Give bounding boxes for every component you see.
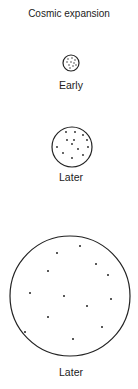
label-early: Early: [0, 79, 138, 91]
circle-early: [63, 55, 79, 71]
expansion-diagram: [0, 0, 138, 389]
label-later-medium: Later: [0, 171, 138, 183]
circle-later-large: [10, 236, 130, 356]
label-later-large: Later: [0, 366, 138, 378]
circle-later-medium: [52, 127, 92, 167]
